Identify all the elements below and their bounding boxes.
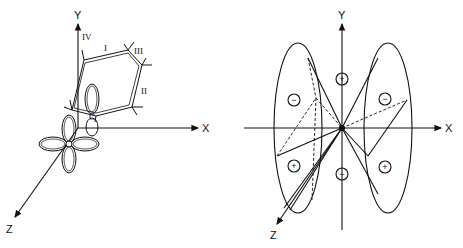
atom-label-c: C xyxy=(89,112,95,122)
ring-label-iv: IV xyxy=(82,32,92,42)
left-x-label: X xyxy=(202,122,210,134)
sign-axis-lower: − xyxy=(339,169,344,179)
diagram-canvas: Y X Z IV I III II C xyxy=(0,0,463,248)
ring-label-ii: II xyxy=(141,86,147,96)
sign-left-upper: − xyxy=(291,95,296,105)
right-y-label: Y xyxy=(338,9,346,21)
d-orbital-cloverleaf xyxy=(39,115,99,173)
right-panel xyxy=(244,24,441,230)
right-x-label: X xyxy=(445,122,453,134)
right-z-label: Z xyxy=(270,229,277,241)
ring-label-iii: III xyxy=(134,46,143,56)
sign-left-lower: + xyxy=(291,161,296,171)
left-z-label: Z xyxy=(6,223,13,235)
sign-right-lower: + xyxy=(382,162,387,172)
left-y-label: Y xyxy=(74,9,82,21)
sign-right-upper: − xyxy=(382,94,387,104)
ring-label-i: I xyxy=(104,43,107,53)
sign-axis-upper: + xyxy=(339,74,344,84)
